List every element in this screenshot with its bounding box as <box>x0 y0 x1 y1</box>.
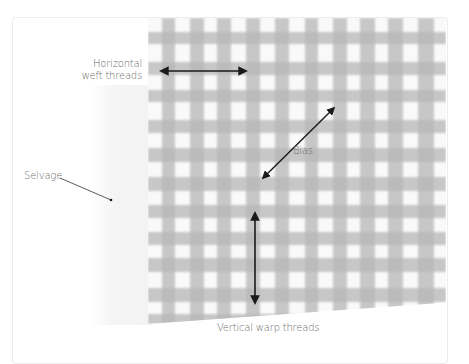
selvage-pointer-icon <box>60 178 111 200</box>
warp-label: Vertical warp threads <box>217 322 319 334</box>
weft-label: Horizontal weft threads <box>70 58 142 82</box>
selvage-pointer-dot-icon <box>110 199 113 202</box>
selvage-label: Selvage <box>24 170 62 182</box>
weft-label-line2: weft threads <box>70 70 142 82</box>
bias-arrow-icon <box>263 108 334 178</box>
bias-label: Bias <box>293 145 313 157</box>
weft-label-line1: Horizontal <box>70 58 142 70</box>
